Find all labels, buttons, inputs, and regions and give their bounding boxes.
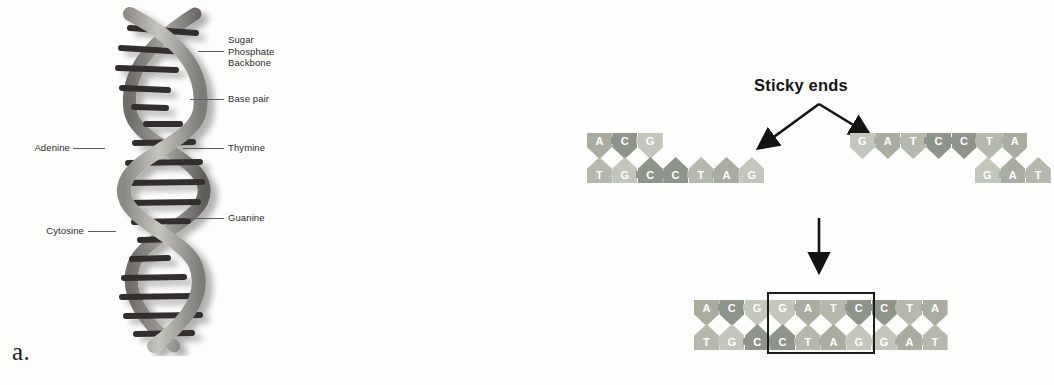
arrow-sticky-end-left — [760, 104, 819, 147]
nucleotide-t: T — [694, 324, 719, 350]
leader-line-base-pair — [190, 99, 224, 100]
nucleotide-a: A — [1002, 133, 1027, 159]
callout-cytosine: Cytosine — [32, 225, 84, 237]
nucleotide-t: T — [689, 157, 714, 183]
leader-line-thymine — [183, 148, 224, 149]
nucleotide-t: T — [1026, 157, 1051, 183]
callout-sugar-phosphate-backbone: Sugar Phosphate Backbone — [228, 34, 274, 69]
nucleotide-t: T — [587, 157, 612, 183]
nucleotide-a: A — [587, 133, 612, 159]
nucleotide-a: A — [897, 324, 922, 350]
nucleotide-g: G — [739, 157, 764, 183]
nucleotide-c: C — [612, 133, 637, 159]
nucleotide-c: C — [638, 157, 663, 183]
nucleotide-c: C — [872, 300, 897, 326]
nucleotide-g: G — [612, 157, 637, 183]
arrow-sticky-end-right — [819, 104, 868, 134]
nucleotide-g: G — [719, 324, 744, 350]
panel-a-dna-structure: Sugar Phosphate Backbone Base pair Thymi… — [0, 0, 527, 385]
nucleotide-t: T — [897, 300, 922, 326]
recombinant-highlight-box — [767, 292, 875, 354]
nucleotide-a: A — [875, 133, 900, 159]
callout-adenine: Adenine — [28, 142, 70, 154]
dna-helix-svg — [88, 6, 238, 356]
nucleotide-c: C — [952, 133, 977, 159]
leader-line-guanine — [186, 218, 224, 219]
nucleotide-g: G — [745, 300, 770, 326]
callout-guanine: Guanine — [228, 212, 265, 224]
leader-line-sugar-phosphate-backbone — [198, 51, 224, 52]
nucleotide-g: G — [975, 157, 1000, 183]
leader-line-cytosine — [88, 231, 116, 232]
nucleotide-g: G — [850, 133, 875, 159]
nucleotide-t: T — [901, 133, 926, 159]
callout-base-pair: Base pair — [228, 93, 269, 105]
callout-thymine: Thymine — [228, 142, 265, 154]
nucleotide-c: C — [719, 300, 744, 326]
figure-canvas: Sugar Phosphate Backbone Base pair Thymi… — [0, 0, 1054, 385]
nucleotide-t: T — [923, 324, 948, 350]
nucleotide-t: T — [977, 133, 1002, 159]
nucleotide-c: C — [663, 157, 688, 183]
panel-label-a: a. — [12, 338, 30, 366]
nucleotide-c: C — [926, 133, 951, 159]
nucleotide-g: G — [638, 133, 663, 159]
nucleotide-g: G — [872, 324, 897, 350]
nucleotide-c: C — [745, 324, 770, 350]
nucleotide-a: A — [714, 157, 739, 183]
leader-line-adenine — [73, 148, 105, 149]
nucleotide-a: A — [1000, 157, 1025, 183]
sticky-ends-label: Sticky ends — [754, 76, 848, 95]
dna-double-helix-illustration — [88, 6, 238, 356]
panel-b-sticky-ends: Sticky ends ACG TGCCTAG GATCCTA GAT ACGG… — [527, 0, 1054, 385]
nucleotide-a: A — [694, 300, 719, 326]
nucleotide-a: A — [923, 300, 948, 326]
